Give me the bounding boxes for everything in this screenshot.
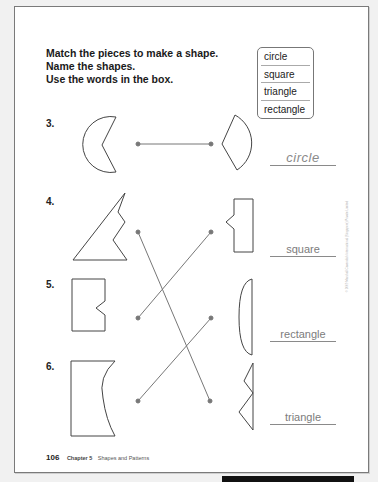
- triangle-piece-left-shape: [73, 193, 127, 260]
- copyright-notice: © 2009 Marshall Cavendish International …: [345, 189, 350, 305]
- answer-field-3[interactable]: circle: [270, 151, 336, 166]
- triangle-piece-right-shape: [239, 363, 253, 430]
- circle-piece-left-shape: [83, 117, 116, 173]
- dot-icon: [136, 230, 140, 234]
- match-line: [138, 232, 211, 318]
- answer-field-6[interactable]: triangle: [270, 410, 336, 425]
- rectangle-piece-left-shape: [71, 361, 115, 436]
- match-line: [138, 232, 210, 401]
- dot-icon: [209, 230, 213, 234]
- chapter-label: Chapter 5: [67, 455, 92, 461]
- dot-icon: [209, 316, 213, 320]
- square-piece-right-shape: [226, 199, 253, 252]
- match-line: [138, 318, 211, 401]
- answer-field-4[interactable]: square: [270, 242, 336, 257]
- chapter-title: Shapes and Patterns: [98, 455, 149, 461]
- rectangle-sliver-right-shape: [239, 279, 252, 355]
- dot-icon: [136, 399, 140, 403]
- circle-piece-right-shape: [222, 115, 252, 170]
- answer-field-5[interactable]: rectangle: [270, 327, 336, 342]
- page-number: 106: [46, 453, 59, 462]
- dot-icon: [136, 142, 140, 146]
- dot-icon: [208, 399, 212, 403]
- dot-icon: [136, 316, 140, 320]
- page-footer: 106 Chapter 5 Shapes and Patterns: [46, 453, 149, 462]
- square-piece-left-shape: [72, 279, 105, 331]
- dot-icon: [209, 142, 213, 146]
